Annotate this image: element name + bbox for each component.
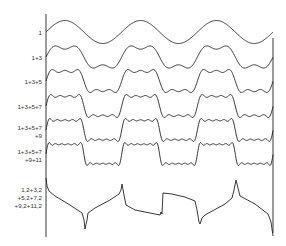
waveform-row-1 <box>46 21 273 44</box>
row-label-4: 1+3+5+7 <box>17 103 42 111</box>
row-label-5: 1+3+5+7 +9 <box>17 124 42 140</box>
fourier-diagram <box>0 0 286 246</box>
row-label-7: 1,2+3,2 +5,2+7,2 +9,2+11,2 <box>15 186 42 210</box>
waveform-row-2 <box>46 46 273 68</box>
waveform-row-3 <box>46 70 273 93</box>
waveform-distorted <box>46 178 273 236</box>
row-label-2: 1+3 <box>32 54 43 62</box>
waveform-curves <box>46 21 273 237</box>
row-label-3: 1+3+5 <box>24 78 42 86</box>
waveform-row-4 <box>46 95 273 118</box>
waveform-row-6 <box>46 143 273 166</box>
row-label-6: 1+3+5+7 +9+11 <box>17 148 42 164</box>
waveform-row-5 <box>46 119 273 142</box>
row-label-1: 1 <box>39 29 42 37</box>
